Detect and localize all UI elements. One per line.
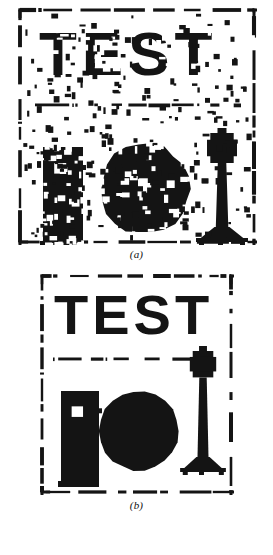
- panel-a-divider: [35, 104, 241, 108]
- panel-a-wrapper: TEST (a): [17, 0, 257, 260]
- panel-a-shape-building-rectangle: [40, 146, 86, 245]
- panel-b-image: TEST: [39, 273, 234, 495]
- panel-b-shape-disc: [99, 391, 179, 471]
- panel-b-caption: (b): [39, 499, 234, 511]
- figure-container: TEST (a) TEST (b): [0, 0, 273, 555]
- panel-b-shape-building-rectangle: [58, 391, 102, 487]
- panel-b-wrapper: TEST (b): [39, 260, 234, 511]
- panel-a-image: TEST: [17, 7, 257, 245]
- panel-a-canvas: TEST: [17, 7, 257, 245]
- panel-a-border: [18, 9, 257, 246]
- panel-b-shape-lamp-post: [180, 346, 226, 475]
- panel-b-canvas: TEST: [39, 273, 234, 495]
- panel-a-caption: (a): [17, 248, 257, 260]
- svg-text:TEST: TEST: [39, 19, 217, 88]
- panel-b-test-text: TEST: [54, 283, 213, 346]
- panel-a-shape-disc: [95, 139, 190, 233]
- panel-a-noise-speckles: [23, 14, 251, 241]
- panel-a-shape-lamp-post: [196, 128, 248, 245]
- panel-b-divider: [53, 358, 211, 362]
- panel-b-border: [41, 275, 235, 496]
- svg-text:TEST: TEST: [54, 283, 213, 346]
- panel-a-test-text: TEST: [35, 19, 254, 99]
